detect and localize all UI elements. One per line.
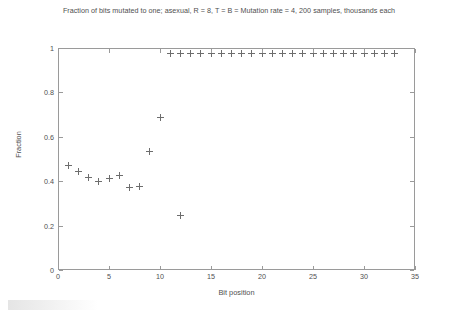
data-point: [146, 148, 153, 155]
y-tick-right: [410, 226, 414, 227]
x-tick-top: [109, 49, 110, 53]
x-tick-top: [364, 49, 365, 53]
data-point: [106, 175, 113, 182]
data-point: [330, 50, 337, 57]
data-point: [197, 50, 204, 57]
data-point: [177, 212, 184, 219]
y-tick: [59, 137, 63, 138]
x-tick-top: [211, 49, 212, 53]
data-point: [371, 50, 378, 57]
data-point: [177, 50, 184, 57]
x-tick: [211, 266, 212, 270]
x-tick-label: 20: [258, 272, 266, 281]
data-point: [126, 184, 133, 191]
x-tick: [313, 266, 314, 270]
data-point: [85, 174, 92, 181]
x-tick: [262, 266, 263, 270]
x-tick: [364, 266, 365, 270]
data-point: [167, 50, 174, 57]
y-axis-tick-labels: 00.20.40.60.81: [28, 0, 54, 312]
y-tick-right: [410, 92, 414, 93]
y-axis-label: Fraction: [14, 115, 23, 175]
x-tick-top: [313, 49, 314, 53]
data-point: [75, 168, 82, 175]
data-point: [269, 50, 276, 57]
data-point: [157, 114, 164, 121]
data-point: [65, 162, 72, 169]
data-point: [279, 50, 286, 57]
data-point: [238, 50, 245, 57]
x-tick-label: 5: [107, 272, 111, 281]
y-tick-label: 0.6: [44, 132, 54, 141]
y-tick: [59, 92, 63, 93]
y-tick-right: [410, 181, 414, 182]
data-point: [116, 172, 123, 179]
data-point: [320, 50, 327, 57]
data-point: [248, 50, 255, 57]
plot-area: [58, 48, 415, 270]
data-point: [187, 50, 194, 57]
y-tick: [59, 181, 63, 182]
data-point: [299, 50, 306, 57]
data-point: [289, 50, 296, 57]
y-tick-right: [410, 270, 414, 271]
data-point: [218, 50, 225, 57]
chart-figure: Fraction of bits mutated to one; asexual…: [0, 0, 458, 312]
x-tick-label: 35: [411, 272, 419, 281]
x-tick-label: 25: [309, 272, 317, 281]
x-tick-top: [262, 49, 263, 53]
y-tick: [59, 226, 63, 227]
y-tick-label: 0: [50, 266, 54, 275]
data-point: [95, 178, 102, 185]
x-tick-label: 15: [207, 272, 215, 281]
data-point: [228, 50, 235, 57]
x-tick-top: [160, 49, 161, 53]
x-tick-top: [58, 49, 59, 53]
data-point: [391, 50, 398, 57]
y-tick-label: 0.2: [44, 221, 54, 230]
data-point: [340, 50, 347, 57]
y-tick-label: 0.8: [44, 88, 54, 97]
x-tick-label: 0: [56, 272, 60, 281]
x-tick-top: [415, 49, 416, 53]
x-tick: [415, 266, 416, 270]
x-tick-label: 10: [156, 272, 164, 281]
y-tick-label: 1: [50, 44, 54, 53]
data-point: [381, 50, 388, 57]
y-tick-right: [410, 137, 414, 138]
y-tick-label: 0.4: [44, 177, 54, 186]
y-tick: [59, 270, 63, 271]
x-tick-label: 30: [360, 272, 368, 281]
data-point: [350, 50, 357, 57]
x-axis-label: Bit position: [58, 288, 415, 297]
x-tick: [160, 266, 161, 270]
y-tick-right: [410, 48, 414, 49]
data-point: [136, 183, 143, 190]
x-tick: [109, 266, 110, 270]
y-tick: [59, 48, 63, 49]
chart-title: Fraction of bits mutated to one; asexual…: [0, 6, 458, 15]
